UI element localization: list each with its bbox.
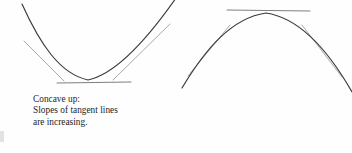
caption-line-title: Concave up: (33, 94, 118, 105)
page-margin-artifact (0, 131, 4, 142)
caption-line-detail-1: Slopes of tangent lines (33, 105, 118, 116)
tangent-line-left (24, 41, 64, 81)
graph-concave-down (176, 0, 352, 95)
caption-line-detail-2: are increasing. (33, 117, 118, 128)
panel-concave-down: Concave down: Slopes of tangent lines ar… (176, 0, 352, 153)
tangent-line-right (113, 24, 170, 80)
tangent-line-right (302, 25, 342, 77)
curve-concave-up (22, 0, 176, 80)
caption-concave-up: Concave up: Slopes of tangent lines are … (33, 94, 118, 128)
concavity-figure: Concave up: Slopes of tangent lines are … (0, 0, 352, 153)
tangent-line-top (227, 10, 310, 11)
graph-concave-up (0, 0, 176, 95)
panel-concave-up: Concave up: Slopes of tangent lines are … (0, 0, 176, 153)
tangent-line-bottom (57, 82, 131, 83)
